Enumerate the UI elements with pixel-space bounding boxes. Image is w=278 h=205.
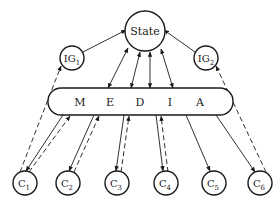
client-node-4: C4	[154, 171, 178, 195]
ig1-node: IG1	[60, 46, 84, 70]
edge-media-c1	[26, 115, 63, 171]
client-node-1: C1	[13, 171, 37, 195]
media-letter-d: D	[136, 96, 145, 109]
edge-media-c5	[186, 115, 210, 171]
media-client-edges	[26, 115, 255, 172]
client-to-ig-edges	[20, 66, 266, 172]
client-node-6: C6	[248, 171, 272, 195]
edge-state-media-2	[131, 52, 140, 88]
edge-c6-ig2	[216, 66, 266, 172]
edge-ig1-state	[83, 30, 126, 52]
edge-c3-media	[121, 116, 129, 172]
state-media-edges	[108, 48, 173, 88]
client-node-3: C3	[105, 171, 129, 195]
media-letter-a: A	[195, 96, 205, 109]
media-letter-i: I	[168, 96, 172, 109]
edge-media-c3	[116, 115, 124, 171]
edge-state-media-1	[108, 48, 128, 88]
state-label: State	[130, 25, 159, 38]
state-node: State	[125, 11, 165, 51]
client-node-5: C5	[202, 171, 226, 195]
edge-c2-media	[74, 116, 99, 172]
media-state-diagram: State IG1 IG2 M E D I A C1 C2 C3 C4 C5	[0, 0, 278, 205]
ig2-node: IG2	[194, 46, 218, 70]
media-letter-m: M	[74, 96, 85, 109]
edge-ig2-state	[164, 30, 195, 52]
edge-c1-media	[29, 116, 70, 172]
edge-media-c2	[69, 115, 94, 171]
edge-media-c6	[216, 115, 255, 172]
media-bar: M E D I A	[48, 88, 233, 115]
media-letter-e: E	[106, 96, 114, 109]
edge-state-media-4	[161, 49, 173, 88]
client-node-2: C2	[56, 171, 80, 195]
